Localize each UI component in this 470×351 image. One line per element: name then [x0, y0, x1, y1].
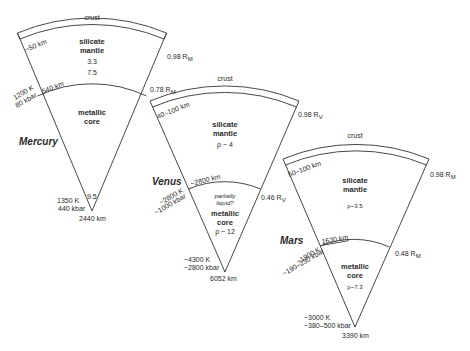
mercury-core-depth: 540 km	[41, 80, 65, 95]
venus-center-temp: ~4300 K	[184, 256, 211, 263]
mercury-crust-thickness: ~50 km	[24, 38, 48, 53]
mercury-core-label-2: core	[84, 117, 100, 126]
venus-core-radius: 0.46 RV	[261, 194, 286, 203]
mars-core-depth: 1630 km	[321, 233, 349, 245]
mercury-center-density: 9.5	[87, 193, 97, 200]
venus-crust-radius: 0.98 RV	[298, 111, 323, 120]
mercury-mantle-label-1: silicate	[79, 37, 104, 46]
mars-cmb-pressure: ~190–230 kbar	[281, 247, 326, 277]
mars-crust-label: crust	[347, 132, 362, 139]
mars-planet-name: Mars	[280, 235, 304, 246]
venus-mantle-label-1: silicate	[212, 120, 237, 129]
mercury-labels: crust ~50 km silicate mantle 3.3 7.5 540…	[12, 14, 193, 222]
planet-interiors-diagram: crust ~50 km silicate mantle 3.3 7.5 540…	[0, 0, 470, 351]
mars-labels: crust 50–100 km 0.98 RM silicate mantle …	[280, 132, 456, 339]
mercury-mantle-density: 3.3	[87, 58, 97, 65]
venus-core-note-2: liquid?	[216, 200, 234, 206]
venus-core-depth: ~2800 km	[190, 173, 222, 187]
mercury-crust-radius: 0.98 RM	[167, 53, 193, 62]
mercury-center-temp: 1350 K	[57, 197, 80, 204]
mars-core-label-1: metallic	[341, 262, 369, 271]
mercury-mantle-label-2: mantle	[80, 46, 104, 55]
mars-radius: 3390 km	[342, 332, 369, 339]
mars-mantle-label-2: mantle	[343, 185, 367, 194]
mercury-center-pressure: 440 kbar	[58, 205, 86, 212]
mars-center-temp: ~3000 K	[304, 314, 331, 321]
venus-core-label-2: core	[217, 218, 233, 227]
mars-center-pressure: ~380–500 kbar	[304, 322, 352, 329]
mars-core-label-2: core	[347, 271, 363, 280]
mercury-core-density: 7.5	[87, 69, 97, 76]
mars-core-density: ρ~7.3	[347, 284, 363, 290]
venus-radius: 6052 km	[210, 275, 237, 282]
venus-mantle-density: ρ ~ 4	[217, 141, 233, 149]
mercury-left-edge	[18, 33, 93, 211]
mercury-planet-name: Mercury	[19, 136, 58, 147]
venus-crust-label: crust	[217, 75, 232, 82]
mercury-core-label-1: metallic	[78, 108, 106, 117]
mercury-radius: 2440 km	[79, 215, 106, 222]
venus-mantle-label-2: mantle	[213, 129, 237, 138]
venus-core-note-1: partially	[214, 193, 237, 199]
mars-surface-arc	[283, 144, 429, 159]
venus-core-label-1: metallic	[211, 209, 239, 218]
mars-crust-radius: 0.98 RM	[430, 171, 456, 180]
mercury-crust-label: crust	[84, 14, 99, 21]
mars-mantle-density: ρ~3.5	[347, 203, 363, 209]
venus-core-density: ρ ~ 12	[215, 228, 235, 236]
venus-planet-name: Venus	[152, 176, 182, 187]
venus-center-pressure: ~2800 kbar	[184, 264, 220, 271]
mars-crust-arc	[286, 151, 427, 165]
mars-mantle-label-1: silicate	[342, 176, 367, 185]
mars-core-radius: 0.48 RM	[395, 250, 421, 259]
